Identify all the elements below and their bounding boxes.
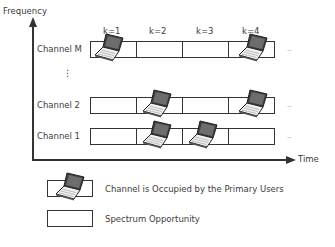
laptop-icon (141, 88, 175, 118)
channel-m-row (90, 41, 275, 58)
legend-occupied-label: Channel is Occupied by the Primary Users (105, 184, 284, 194)
channel-2-label: Channel 2 (37, 100, 80, 110)
laptop-icon (54, 171, 88, 201)
legend-free-swatch (47, 210, 93, 227)
channel-m-ellipsis: .. (287, 45, 291, 53)
slot-occupied (228, 41, 275, 58)
slot-label-k2: k=2 (149, 26, 166, 36)
slot-occupied (90, 41, 136, 58)
slot-occupied (136, 97, 182, 114)
channel-1-row (90, 128, 275, 145)
slot-free (90, 128, 136, 145)
slot-occupied (228, 97, 275, 114)
laptop-icon (141, 119, 175, 149)
channel-2-row (90, 97, 275, 114)
slot-free (182, 41, 228, 58)
vertical-ellipsis: ⋮ (63, 68, 72, 78)
x-axis (32, 159, 288, 161)
y-axis (32, 26, 34, 161)
laptop-icon (237, 32, 271, 62)
channel-m-label: Channel M (37, 44, 82, 54)
slot-free (182, 97, 228, 114)
y-axis-label: Frequency (3, 6, 47, 16)
legend-occupied-swatch (47, 180, 93, 197)
slot-free (228, 128, 275, 145)
channel-1-ellipsis: .. (287, 132, 291, 140)
channel-1-label: Channel 1 (37, 131, 80, 141)
channel-2-ellipsis: .. (287, 101, 291, 109)
legend-free-label: Spectrum Opportunity (105, 214, 200, 224)
slot-free (90, 97, 136, 114)
slot-occupied (182, 128, 228, 145)
slot-occupied (136, 128, 182, 145)
laptop-icon (187, 119, 221, 149)
x-axis-arrow-icon (286, 156, 296, 164)
slot-label-k3: k=3 (196, 26, 213, 36)
slot-free (136, 41, 182, 58)
x-axis-label: Time (298, 154, 319, 164)
laptop-icon (93, 32, 127, 62)
laptop-icon (237, 88, 271, 118)
